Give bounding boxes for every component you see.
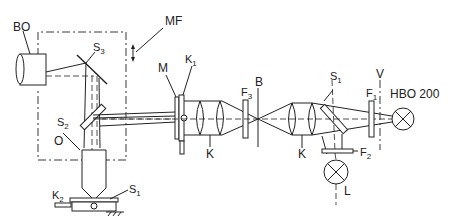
binocular-eyepiece [16,31,46,85]
label-v: V [376,67,384,81]
label-k-left: K [206,147,214,161]
label-f3: F3 [241,86,253,101]
filter-f2 [322,149,353,153]
label-o: O [54,134,63,148]
label-k1: K1 [185,53,197,68]
microscope-frame [38,32,126,160]
label-m: M [158,61,168,75]
lens-group-k-right [289,103,316,148]
optical-diagram: BO S3 S2 O K2 S1 [0,0,452,224]
label-s1-stage: S1 [129,183,141,198]
mf-indicator [131,28,163,62]
label-f1: F1 [366,87,378,102]
label-b: B [255,75,263,89]
lamp-hbo200 [392,108,414,130]
label-k-right: K [298,147,306,161]
label-s3: S3 [93,41,105,56]
label-f2: F2 [360,146,372,161]
beam-splitter-s1 [320,80,347,154]
label-hbo: HBO 200 [390,87,440,101]
label-s2: S2 [57,116,69,131]
label-k2: K2 [52,189,64,204]
mirror-holder-m [166,66,192,154]
filter-f1 [369,101,374,137]
label-bo: BO [13,20,30,34]
label-l: L [344,184,351,198]
label-mf: MF [165,14,182,28]
